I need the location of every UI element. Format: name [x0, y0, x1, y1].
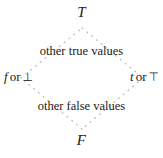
vertex-label-left: for⊥ [4, 70, 33, 83]
right-conjunction: or [134, 69, 149, 84]
vertex-label-bottom: F [0, 133, 163, 148]
region-label-other-false-values: other false values [0, 100, 163, 113]
vertex-label-right: tor⊤ [130, 70, 159, 83]
region-label-other-true-values: other true values [0, 45, 163, 58]
top-tack-icon: ⊤ [149, 70, 159, 84]
vertex-label-top: T [0, 5, 163, 20]
truth-value-lattice-figure: T for⊥ tor⊤ other true values other fals… [0, 0, 163, 158]
bottom-tack-icon: ⊥ [22, 70, 32, 84]
left-conjunction: or [8, 69, 23, 84]
